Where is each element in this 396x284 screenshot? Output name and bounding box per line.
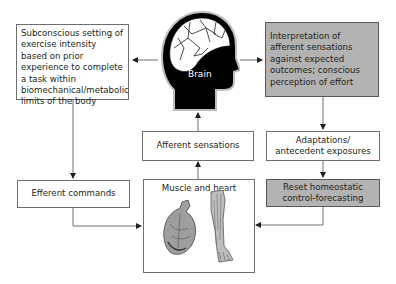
- subconscious-setting-text: Subconscious setting of exercise intensi…: [21, 28, 125, 108]
- reset-homeostatic-box: Reset homeostatic control-forecasting: [266, 179, 380, 207]
- leg-muscle-icon: [209, 190, 235, 266]
- muscle-and-heart-box: Muscle and heart: [143, 179, 255, 273]
- efferent-commands-text: Efferent commands: [31, 188, 115, 199]
- efferent-commands-box: Efferent commands: [17, 180, 130, 208]
- fatigue-model-diagram: Brain Subconscious setting of exercise i…: [0, 0, 396, 284]
- interpretation-text: Interpretation of afferent sensations ag…: [270, 31, 375, 88]
- heart-icon: [162, 200, 198, 258]
- afferent-sensations-box: Afferent sensations: [142, 131, 254, 161]
- muscle-and-heart-label: Muscle and heart: [144, 183, 254, 194]
- afferent-sensations-text: Afferent sensations: [156, 140, 239, 151]
- interpretation-box: Interpretation of afferent sensations ag…: [265, 22, 379, 97]
- reset-homeostatic-text: Reset homeostatic control-forecasting: [275, 182, 371, 205]
- subconscious-setting-box: Subconscious setting of exercise intensi…: [16, 24, 129, 100]
- adaptations-text: Adaptations/ antecedent exposures: [273, 135, 373, 158]
- head-brain-icon: Brain: [160, 8, 240, 112]
- svg-text:Brain: Brain: [188, 69, 212, 79]
- adaptations-box: Adaptations/ antecedent exposures: [266, 131, 380, 161]
